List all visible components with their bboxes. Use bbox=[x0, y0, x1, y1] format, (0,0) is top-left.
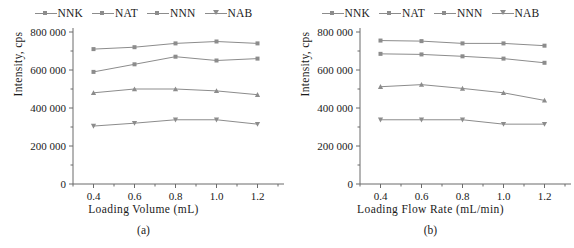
x-tick-label: 1.0 bbox=[210, 190, 224, 200]
y-tick-label: 0 bbox=[61, 178, 67, 190]
data-series-nnk bbox=[379, 39, 547, 48]
data-point bbox=[461, 54, 465, 58]
data-point bbox=[215, 59, 219, 63]
data-series-nab bbox=[91, 118, 260, 129]
data-point bbox=[133, 45, 137, 49]
x-tick-label: 0.8 bbox=[456, 190, 470, 200]
data-point bbox=[133, 62, 137, 66]
figure-container: NNK NAT NNN NAB 0200 000400 000600 00080… bbox=[0, 0, 574, 248]
y-tick-label: 200 000 bbox=[30, 140, 66, 152]
x-axis-title-a: Loading Volume (mL) bbox=[0, 203, 287, 215]
y-tick-label: 400 000 bbox=[317, 102, 353, 114]
y-tick-label: 400 000 bbox=[30, 102, 66, 114]
chart-panel-b: NNK NAT NNN NAB 0200 000400 000600 00080… bbox=[287, 0, 574, 248]
y-axis-title-a: Intensity, cps bbox=[12, 9, 24, 119]
plot-area-b: 0200 000400 000600 000800 0000.40.60.81.… bbox=[287, 0, 574, 200]
y-axis-title-b: Intensity, cps bbox=[299, 9, 311, 119]
data-series-nat bbox=[92, 55, 260, 74]
x-tick-label: 1.2 bbox=[538, 190, 552, 200]
data-point bbox=[174, 41, 178, 45]
y-tick-label: 200 000 bbox=[317, 140, 353, 152]
data-point bbox=[92, 47, 96, 51]
data-series-nat bbox=[379, 52, 547, 65]
plot-area-a: 0200 000400 000600 000800 0000.40.60.81.… bbox=[0, 0, 287, 200]
data-series-nnk bbox=[92, 40, 260, 52]
data-point bbox=[92, 70, 96, 74]
y-tick-label: 600 000 bbox=[317, 64, 353, 76]
data-point bbox=[256, 57, 260, 61]
data-point bbox=[215, 40, 219, 44]
data-point bbox=[543, 61, 547, 65]
x-tick-label: 0.4 bbox=[374, 190, 388, 200]
data-point bbox=[379, 52, 383, 56]
chart-panel-a: NNK NAT NNN NAB 0200 000400 000600 00080… bbox=[0, 0, 287, 248]
data-point bbox=[461, 41, 465, 45]
x-tick-label: 0.8 bbox=[169, 190, 183, 200]
x-tick-label: 0.6 bbox=[128, 190, 142, 200]
data-point bbox=[420, 52, 424, 56]
x-tick-label: 0.6 bbox=[415, 190, 429, 200]
y-tick-label: 800 000 bbox=[30, 26, 66, 38]
y-tick-label: 800 000 bbox=[317, 26, 353, 38]
data-point bbox=[379, 39, 383, 43]
x-tick-label: 1.2 bbox=[251, 190, 265, 200]
data-point bbox=[420, 39, 424, 43]
x-tick-label: 0.4 bbox=[87, 190, 101, 200]
data-point bbox=[256, 41, 260, 45]
x-axis-title-b: Loading Flow Rate (mL/min) bbox=[287, 203, 574, 215]
data-point bbox=[502, 41, 506, 45]
panel-caption-b: (b) bbox=[287, 224, 574, 236]
data-series-nnn bbox=[378, 82, 547, 103]
data-point bbox=[543, 44, 547, 48]
data-point bbox=[502, 57, 506, 61]
y-tick-label: 0 bbox=[348, 178, 354, 190]
y-tick-label: 600 000 bbox=[30, 64, 66, 76]
x-tick-label: 1.0 bbox=[497, 190, 511, 200]
data-series-nab bbox=[378, 118, 547, 127]
panel-caption-a: (a) bbox=[0, 224, 287, 236]
data-point bbox=[174, 55, 178, 59]
data-series-nnn bbox=[91, 86, 260, 97]
